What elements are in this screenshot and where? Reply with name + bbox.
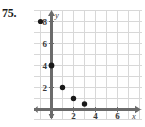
data-point (82, 101, 87, 106)
y-tick-label-6: 6 (43, 39, 48, 49)
problem-number-label: 75. (2, 7, 16, 19)
data-point (38, 19, 43, 24)
y-tick-label-8: 8 (43, 17, 48, 27)
x-tick-label-6: 6 (115, 111, 120, 120)
data-point (71, 96, 76, 101)
data-point (49, 63, 55, 69)
scatter-plot: 8 6 4 2 2 4 6 y x (34, 8, 142, 120)
data-point (60, 85, 65, 90)
x-tick-label-4: 4 (93, 111, 98, 120)
y-tick-label-2: 2 (43, 83, 48, 93)
y-axis-name-label: y (54, 10, 59, 20)
y-tick-label-4: 4 (43, 61, 48, 71)
x-axis-name-label: x (131, 111, 136, 120)
x-tick-label-2: 2 (71, 111, 76, 120)
figure-container: 75. (0, 0, 145, 127)
